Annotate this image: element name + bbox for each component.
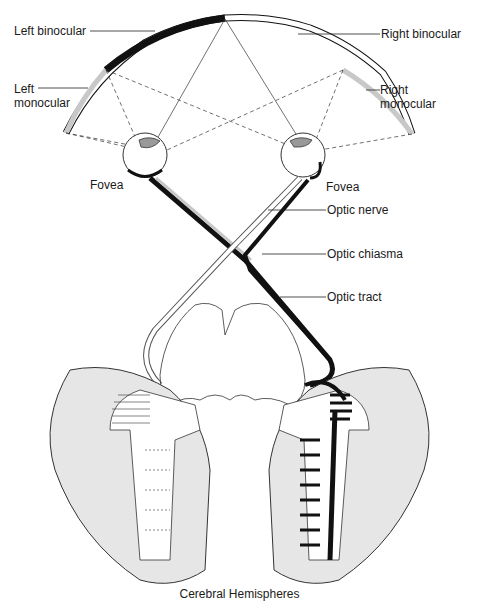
label-left-binocular: Left binocular <box>14 24 86 38</box>
brainstem <box>160 303 305 405</box>
label-right-binocular: Right binocular <box>381 27 461 41</box>
caption-cerebral-hemispheres: Cerebral Hemispheres <box>0 587 479 601</box>
projection-lines <box>66 19 412 160</box>
label-right-monocular-line1: Right <box>380 83 408 97</box>
label-fovea-left: Fovea <box>90 178 123 192</box>
label-left-monocular-line1: Left <box>14 82 34 96</box>
label-fovea-right: Fovea <box>326 180 359 194</box>
right-hemisphere <box>269 368 429 584</box>
right-eye <box>281 133 325 178</box>
left-eye <box>123 133 167 177</box>
label-optic-nerve: Optic nerve <box>327 203 388 217</box>
label-right-monocular-line2: monocular <box>380 97 436 111</box>
label-left-monocular-line2: monocular <box>14 96 70 110</box>
left-hemisphere <box>50 368 210 584</box>
label-optic-chiasma: Optic chiasma <box>327 247 403 261</box>
label-optic-tract: Optic tract <box>327 290 382 304</box>
optic-pathways <box>146 178 332 385</box>
visual-field-arc <box>66 17 412 134</box>
